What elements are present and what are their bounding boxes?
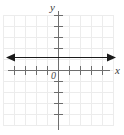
graph-svg: y x 0: [0, 0, 124, 135]
plotted-line-arrow-left: [6, 54, 15, 62]
axes: [8, 11, 110, 130]
x-axis-label: x: [114, 64, 120, 76]
origin-label: 0: [51, 70, 56, 81]
y-axis-label: y: [49, 1, 55, 13]
plotted-line-series: [6, 54, 116, 62]
plotted-line-arrow-right: [107, 54, 116, 62]
coordinate-plane-figure: y x 0: [0, 0, 124, 135]
